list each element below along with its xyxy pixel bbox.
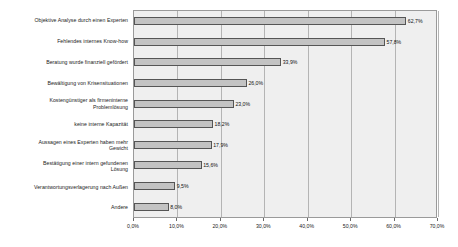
bar-value-label: 17,9% — [213, 142, 228, 148]
bar[interactable] — [134, 79, 247, 87]
category-label-text: Fehlendes internes Know-how — [57, 38, 128, 44]
bar-row: 18,2% — [134, 114, 436, 135]
bar[interactable] — [134, 17, 406, 25]
category-label-text: Objektive Analyse durch einen Experten — [34, 17, 128, 23]
category-label: Aussagen eines Experten haben mehr Gewic… — [0, 135, 131, 156]
category-label: Kostengünstiger als firmeninterne Proble… — [0, 93, 131, 114]
category-label-text: Andere — [111, 204, 128, 210]
bar-row: 26,0% — [134, 73, 436, 94]
category-label-text: keine interne Kapazität — [74, 121, 128, 127]
category-axis: Objektive Analyse durch einen ExpertenFe… — [0, 10, 131, 218]
bar[interactable] — [134, 203, 169, 211]
x-tick-label: 70,0% — [430, 223, 445, 230]
bar-value-label: 8,0% — [170, 204, 182, 210]
bars-layer: 62,7%57,8%33,9%26,0%23,0%18,2%17,9%15,6%… — [134, 11, 436, 217]
category-label-text: Aussagen eines Experten haben mehr Gewic… — [38, 139, 128, 152]
bar-value-label: 62,7% — [408, 18, 423, 24]
bar[interactable] — [134, 58, 281, 66]
x-tick-label: 0,0% — [127, 223, 139, 230]
bar-row: 33,9% — [134, 52, 436, 73]
bar-row: 8,0% — [134, 196, 436, 217]
x-tick-mark — [176, 218, 177, 221]
category-label: Verantwortungsverlagerung nach Außen — [0, 176, 131, 197]
bar-row: 57,8% — [134, 32, 436, 53]
bar[interactable] — [134, 100, 234, 108]
gridline — [438, 11, 439, 217]
x-tick-mark — [307, 218, 308, 221]
category-label: Andere — [0, 197, 131, 218]
bar-row: 23,0% — [134, 93, 436, 114]
bar[interactable] — [134, 38, 385, 46]
bar-value-label: 9,5% — [177, 183, 189, 189]
bar-value-label: 33,9% — [283, 59, 298, 65]
x-tick-label: 20,0% — [212, 223, 227, 230]
x-tick-mark — [133, 218, 134, 221]
bar-row: 17,9% — [134, 135, 436, 156]
x-axis: 0,0%10,0%20,0%30,0%40,0%50,0%60,0%70,0% — [133, 218, 437, 244]
x-tick-mark — [263, 218, 264, 221]
category-label: Fehlendes internes Know-how — [0, 31, 131, 52]
bar-value-label: 57,8% — [387, 39, 402, 45]
category-label: Bewältigung von Krisensituationen — [0, 72, 131, 93]
bar-chart: Objektive Analyse durch einen ExpertenFe… — [0, 0, 458, 247]
x-tick-label: 10,0% — [169, 223, 184, 230]
x-tick-mark — [437, 218, 438, 221]
category-label: keine interne Kapazität — [0, 114, 131, 135]
bar-row: 62,7% — [134, 11, 436, 32]
category-label: Beratung wurde finanziell gefördert — [0, 52, 131, 73]
x-tick-mark — [220, 218, 221, 221]
x-tick-label: 60,0% — [386, 223, 401, 230]
category-label-text: Bewältigung von Krisensituationen — [47, 80, 128, 86]
bar-value-label: 23,0% — [235, 101, 250, 107]
bar-value-label: 26,0% — [248, 80, 263, 86]
bar[interactable] — [134, 120, 213, 128]
bar[interactable] — [134, 141, 212, 149]
category-label: Objektive Analyse durch einen Experten — [0, 10, 131, 31]
category-label-text: Verantwortungsverlagerung nach Außen — [34, 184, 128, 190]
x-tick-mark — [394, 218, 395, 221]
bar-row: 9,5% — [134, 176, 436, 197]
category-label-text: Kostengünstiger als firmeninterne Proble… — [49, 97, 128, 110]
category-label: Bestätigung einer intern gefundenen Lösu… — [0, 156, 131, 177]
bar[interactable] — [134, 182, 175, 190]
bar-value-label: 15,6% — [203, 162, 218, 168]
x-tick-label: 40,0% — [299, 223, 314, 230]
bar-value-label: 18,2% — [215, 121, 230, 127]
bar[interactable] — [134, 161, 202, 169]
x-tick-mark — [350, 218, 351, 221]
category-label-text: Beratung wurde finanziell gefördert — [46, 59, 128, 65]
category-label-text: Bestätigung einer intern gefundenen Lösu… — [43, 160, 128, 173]
bar-row: 15,6% — [134, 155, 436, 176]
x-tick-label: 50,0% — [343, 223, 358, 230]
x-tick-label: 30,0% — [256, 223, 271, 230]
plot-area: 62,7%57,8%33,9%26,0%23,0%18,2%17,9%15,6%… — [133, 10, 437, 218]
